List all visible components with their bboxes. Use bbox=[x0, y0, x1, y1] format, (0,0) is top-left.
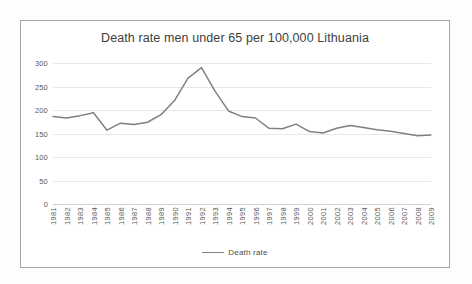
x-tick-1991: 1991 bbox=[184, 207, 193, 225]
y-tick-200: 200 bbox=[35, 106, 48, 115]
x-tick-1982: 1982 bbox=[63, 207, 72, 225]
chart-container: Death rate men under 65 per 100,000 Lith… bbox=[20, 20, 450, 268]
x-tick-2002: 2002 bbox=[333, 207, 342, 225]
x-tick-1989: 1989 bbox=[157, 207, 166, 225]
gridline-0 bbox=[53, 204, 431, 205]
x-tick-1981: 1981 bbox=[49, 207, 58, 225]
y-tick-100: 100 bbox=[35, 153, 48, 162]
legend-label-death-rate: Death rate bbox=[228, 248, 267, 257]
x-tick-2003: 2003 bbox=[346, 207, 355, 225]
y-tick-300: 300 bbox=[35, 59, 48, 68]
legend-line-swatch bbox=[202, 252, 224, 253]
line-path-death-rate bbox=[53, 68, 431, 136]
plot-area bbox=[53, 63, 431, 204]
chart-legend: Death rate bbox=[21, 248, 449, 257]
y-tick-250: 250 bbox=[35, 82, 48, 91]
y-tick-0: 0 bbox=[44, 200, 48, 209]
x-tick-1987: 1987 bbox=[130, 207, 139, 225]
x-axis-tick-labels: 1981198219831984198519861987198819891990… bbox=[53, 207, 431, 249]
x-tick-1996: 1996 bbox=[252, 207, 261, 225]
chart-title: Death rate men under 65 per 100,000 Lith… bbox=[21, 31, 449, 45]
x-tick-1999: 1999 bbox=[292, 207, 301, 225]
x-tick-1984: 1984 bbox=[90, 207, 99, 225]
x-tick-1983: 1983 bbox=[76, 207, 85, 225]
x-tick-2005: 2005 bbox=[373, 207, 382, 225]
data-series-death-rate bbox=[53, 63, 431, 204]
x-tick-1995: 1995 bbox=[238, 207, 247, 225]
x-tick-1986: 1986 bbox=[117, 207, 126, 225]
y-tick-50: 50 bbox=[39, 176, 48, 185]
screenshot-root: Death rate men under 65 per 100,000 Lith… bbox=[0, 0, 472, 284]
x-tick-2008: 2008 bbox=[414, 207, 423, 225]
y-tick-150: 150 bbox=[35, 129, 48, 138]
x-tick-2004: 2004 bbox=[360, 207, 369, 225]
x-tick-1988: 1988 bbox=[144, 207, 153, 225]
x-tick-1993: 1993 bbox=[211, 207, 220, 225]
x-tick-2009: 2009 bbox=[427, 207, 436, 225]
x-tick-1990: 1990 bbox=[171, 207, 180, 225]
x-tick-1998: 1998 bbox=[279, 207, 288, 225]
x-tick-2006: 2006 bbox=[387, 207, 396, 225]
y-axis-tick-labels: 050100150200250300 bbox=[21, 63, 51, 204]
x-tick-2007: 2007 bbox=[400, 207, 409, 225]
x-tick-2001: 2001 bbox=[319, 207, 328, 225]
x-tick-1985: 1985 bbox=[103, 207, 112, 225]
x-tick-1994: 1994 bbox=[225, 207, 234, 225]
x-tick-1997: 1997 bbox=[265, 207, 274, 225]
x-tick-2000: 2000 bbox=[306, 207, 315, 225]
x-tick-1992: 1992 bbox=[198, 207, 207, 225]
